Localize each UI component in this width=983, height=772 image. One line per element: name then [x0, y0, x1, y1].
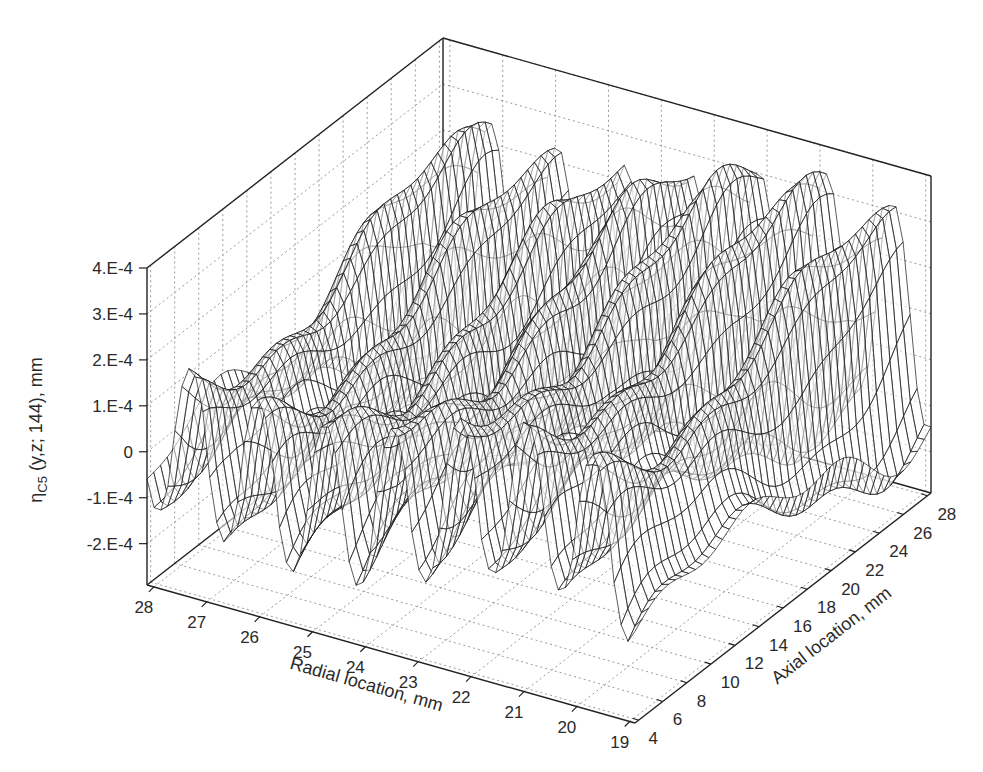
radial-tick	[572, 707, 577, 712]
axial-tick-label: 8	[697, 692, 706, 711]
radial-tick-label: 21	[505, 703, 524, 722]
radial-tick	[625, 722, 630, 727]
radial-tick	[307, 632, 312, 637]
axial-tick-label: 6	[673, 710, 682, 729]
radial-tick-label: 22	[452, 688, 471, 707]
radial-tick	[202, 602, 207, 607]
axial-tick-label: 18	[817, 598, 836, 617]
radial-tick	[149, 587, 154, 592]
radial-tick	[360, 647, 365, 652]
radial-tick	[466, 677, 471, 682]
z-tick-label: 0	[124, 443, 133, 462]
radial-tick-label: 19	[610, 733, 629, 752]
radial-tick	[519, 692, 524, 697]
wireframe-surface	[147, 122, 931, 641]
axial-tick-label: 24	[889, 542, 908, 561]
axial-tick-label: 10	[721, 673, 740, 692]
axial-tick-label: 22	[865, 561, 884, 580]
radial-tick-label: 20	[557, 718, 576, 737]
radial-tick	[413, 662, 418, 667]
radial-tick	[255, 617, 260, 622]
axial-tick-label: 14	[769, 636, 788, 655]
box-edge	[443, 38, 931, 176]
z-tick-label: 4.E-4	[92, 259, 133, 278]
z-tick-label: -2.E-4	[87, 535, 133, 554]
surface-plot: -2.E-4-1.E-401.E-42.E-43.E-44.E-4 282726…	[0, 0, 983, 772]
z-tick-label: 2.E-4	[92, 351, 133, 370]
z-tick-label: 3.E-4	[92, 305, 133, 324]
radial-tick-label: 27	[187, 613, 206, 632]
z-tick-label: -1.E-4	[87, 489, 133, 508]
z-axis-label: ηC5 (y,z; 144), mm	[26, 357, 50, 502]
axial-tick-label: 26	[913, 524, 932, 543]
axial-tick-label: 16	[793, 617, 812, 636]
axial-tick-label: 28	[937, 505, 956, 524]
radial-tick-label: 26	[240, 628, 259, 647]
axial-tick-label: 20	[841, 580, 860, 599]
radial-tick-label: 28	[134, 598, 153, 617]
axial-tick-label: 4	[649, 729, 658, 748]
z-tick-label: 1.E-4	[92, 397, 133, 416]
axial-tick-label: 12	[745, 654, 764, 673]
z-axis-ticks: -2.E-4-1.E-401.E-42.E-43.E-44.E-4	[87, 259, 147, 554]
